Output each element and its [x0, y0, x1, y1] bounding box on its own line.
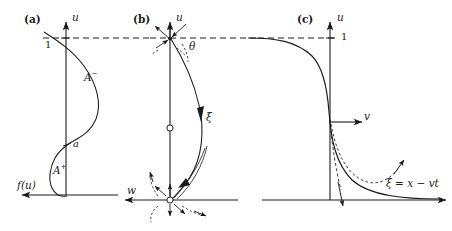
panel-b-trajectory-label: ξ	[206, 112, 212, 123]
panel-b-graphics	[125, 22, 258, 222]
panel-b-orbit-direction-arrow	[197, 106, 204, 122]
figure-vector-layer	[0, 0, 452, 231]
panel-b-lower-saddle-point	[167, 197, 173, 203]
panel-a-graphics	[22, 22, 150, 196]
panel-a-point-a-label: a	[73, 139, 79, 149]
panel-b-u-axis-label: u	[176, 12, 183, 23]
panel-a-u-axis-label: u	[72, 12, 79, 23]
panel-c-speed-label: v	[364, 111, 370, 122]
panel-c-u-axis-label: u	[337, 12, 344, 23]
panel-c-dotted-branch	[331, 124, 400, 183]
panel-b-tag: (b)	[133, 14, 150, 25]
panel-c-xi-axis-label: ξ = x − vt	[386, 178, 439, 189]
figure-canvas: (a) u 1 f(u) A− A+ a (b) u w θ ξ (c) u 1…	[0, 0, 452, 231]
panel-c-dotted-branch-arrow	[394, 160, 404, 174]
panel-b-w-axis-label: w	[127, 185, 136, 196]
panel-c-wave-front	[248, 38, 440, 199]
panel-b-theta-label: θ	[189, 41, 195, 52]
panel-b-heteroclinic-orbit	[171, 39, 202, 199]
panel-b-nearby-orbit-1	[174, 148, 205, 198]
panel-a-f-axis-label: f(u)	[17, 180, 36, 191]
panel-a-area-lower-label: A+	[53, 163, 67, 175]
panel-a-tag: (a)	[24, 14, 41, 25]
panel-b-lower-saddle-arrows	[150, 172, 206, 222]
panel-c-steep-branch	[330, 120, 341, 190]
panel-a-area-upper-label: A−	[84, 70, 98, 82]
panel-b-middle-node	[167, 125, 173, 131]
panel-c-tag: (c)	[297, 14, 313, 25]
panel-c-tick-label: 1	[341, 32, 347, 42]
panel-a-tick-label: 1	[45, 40, 51, 50]
panel-b-upper-saddle-point	[168, 37, 172, 41]
panel-c-steep-branch-arrow	[338, 182, 343, 206]
